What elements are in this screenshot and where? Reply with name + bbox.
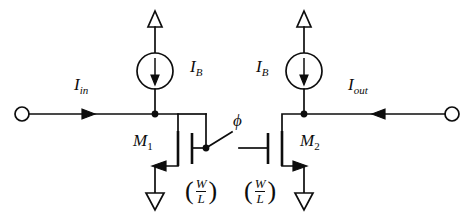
label-ratio-left-close-paren: )	[209, 179, 218, 202]
schematic-canvas	[0, 0, 476, 219]
switch-phi-blade[interactable]	[206, 132, 232, 148]
label-m1-subscript: 1	[147, 140, 153, 152]
label-m2-subscript: 2	[314, 140, 320, 152]
label-i-bias-left-subscript: B	[196, 66, 203, 78]
label-ratio-left-denominator: L	[196, 191, 205, 206]
label-m1-symbol: M	[133, 131, 147, 150]
label-i-in-subscript: in	[80, 84, 89, 96]
label-ratio-right-open-paren: (	[244, 179, 253, 202]
label-ratio-left-fraction: W L	[195, 177, 208, 205]
ground-arrowhead-right-icon	[295, 193, 313, 210]
ground-arrowhead-left-icon	[146, 193, 164, 210]
label-ratio-right-fraction: W L	[254, 177, 267, 205]
m1-source-arrow-icon	[152, 161, 166, 171]
label-ratio-right-close-paren: )	[268, 179, 277, 202]
input-terminal-icon[interactable]	[15, 107, 29, 121]
wire-m1-drain	[155, 114, 178, 131]
current-arrow-out-icon	[372, 109, 385, 119]
label-phi: ϕ	[233, 112, 242, 129]
output-terminal-icon[interactable]	[445, 107, 459, 121]
label-i-bias-left: IB	[190, 58, 202, 78]
label-m2-symbol: M	[300, 131, 314, 150]
current-arrow-in-icon	[82, 109, 95, 119]
m2-source-arrow-icon	[293, 161, 307, 171]
label-ratio-right-numerator: W	[254, 177, 267, 191]
label-i-out-subscript: out	[354, 84, 368, 96]
label-ratio-right: ( W L )	[244, 177, 276, 205]
label-m2: M2	[300, 132, 320, 152]
label-ratio-left-numerator: W	[195, 177, 208, 191]
label-ratio-right-denominator: L	[255, 191, 264, 206]
wire-m2-drain	[282, 114, 304, 131]
label-i-in: Iin	[74, 76, 88, 96]
label-i-bias-right: IB	[256, 58, 268, 78]
label-ratio-left-open-paren: (	[185, 179, 194, 202]
vdd-arrowhead-right-icon	[297, 11, 311, 27]
label-ratio-left: ( W L )	[185, 177, 217, 205]
label-m1: M1	[133, 132, 153, 152]
vdd-arrowhead-left-icon	[148, 11, 162, 27]
circuit-schematic: Iin IB IB Iout M1 M2 ϕ ( W L ) ( W L )	[0, 0, 476, 219]
label-i-bias-right-subscript: B	[262, 66, 269, 78]
label-i-out: Iout	[348, 76, 368, 96]
